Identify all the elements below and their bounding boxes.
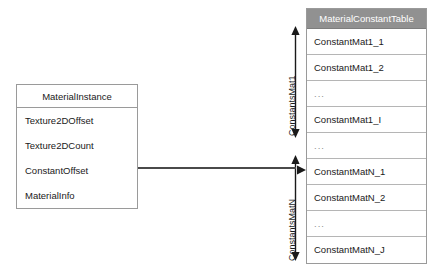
table-row: ...: [307, 211, 426, 237]
table-row: ConstantMat1_2: [307, 55, 426, 81]
range-label-mat1: ConstantsMat1: [287, 75, 297, 136]
list-item: ConstantOffset: [17, 158, 137, 183]
constant-table-header: MaterialConstantTable: [307, 9, 426, 29]
constant-table: MaterialConstantTable ConstantMat1_1 Con…: [306, 8, 427, 264]
diagram-canvas: MaterialConstantTable ConstantMat1_1 Con…: [0, 0, 441, 273]
material-instance-header: MaterialInstance: [17, 85, 137, 108]
table-row: ConstantMat1_1: [307, 29, 426, 55]
list-item: Texture2DOffset: [17, 108, 137, 133]
list-item: MaterialInfo: [17, 183, 137, 208]
table-row: ...: [307, 133, 426, 159]
list-item: Texture2DCount: [17, 133, 137, 158]
connector-arrowhead: [294, 162, 306, 180]
material-instance-box: MaterialInstance Texture2DOffset Texture…: [16, 84, 138, 209]
range-label-matn: ConstantsMatN: [287, 199, 297, 261]
table-row: ConstantMatN_1: [307, 159, 426, 185]
connector-line: [138, 167, 296, 169]
table-row: ...: [307, 81, 426, 107]
table-row: ConstantMatN_J: [307, 237, 426, 263]
table-row: ConstantMatN_2: [307, 185, 426, 211]
table-row: ConstantMat1_I: [307, 107, 426, 133]
